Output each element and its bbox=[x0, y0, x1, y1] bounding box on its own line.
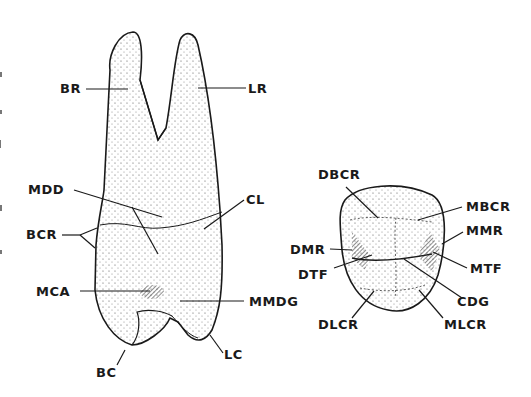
label-bcr: BCR bbox=[26, 228, 57, 242]
tooth-diagram bbox=[0, 0, 531, 397]
label-cl: CL bbox=[246, 193, 265, 207]
side-view-tooth bbox=[95, 32, 222, 345]
label-bc: BC bbox=[96, 366, 116, 380]
label-dlcr: DLCR bbox=[318, 318, 359, 332]
label-dmr: DMR bbox=[290, 243, 325, 257]
label-mtf: MTF bbox=[470, 262, 502, 276]
label-mlcr: MLCR bbox=[444, 318, 487, 332]
label-lc: LC bbox=[224, 348, 243, 362]
label-mmr: MMR bbox=[466, 224, 503, 238]
label-dbcr: DBCR bbox=[318, 168, 360, 182]
label-mmdg: MMDG bbox=[249, 295, 298, 309]
scan-edge-marks bbox=[0, 72, 2, 254]
label-lr: LR bbox=[248, 82, 267, 96]
label-mbcr: MBCR bbox=[466, 200, 510, 214]
occlusal-view-tooth bbox=[340, 186, 444, 311]
label-mca: MCA bbox=[36, 285, 70, 299]
label-br: BR bbox=[60, 82, 81, 96]
label-cdg: CDG bbox=[457, 295, 490, 309]
label-dtf: DTF bbox=[298, 268, 328, 282]
label-mdd: MDD bbox=[28, 183, 64, 197]
